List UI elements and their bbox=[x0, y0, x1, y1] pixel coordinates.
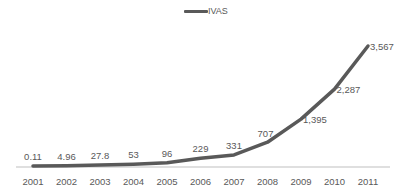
data-label: 331 bbox=[226, 140, 242, 151]
x-axis-tick-labels: 2001200220032004200520062007200820092010… bbox=[22, 176, 378, 187]
data-label: 229 bbox=[193, 143, 209, 154]
data-label: 3,567 bbox=[370, 41, 394, 52]
data-label: 4.96 bbox=[57, 151, 76, 162]
x-tick-label: 2002 bbox=[56, 176, 77, 187]
x-tick-label: 2008 bbox=[257, 176, 278, 187]
data-label: 1,395 bbox=[303, 114, 327, 125]
data-label: 53 bbox=[128, 149, 139, 160]
data-label: 0.11 bbox=[24, 151, 42, 162]
x-tick-label: 2007 bbox=[223, 176, 244, 187]
data-label: 707 bbox=[258, 128, 274, 139]
data-label: 27.8 bbox=[91, 150, 110, 161]
x-tick-label: 2004 bbox=[123, 176, 144, 187]
line-chart: 2001200220032004200520062007200820092010… bbox=[0, 0, 407, 195]
x-tick-label: 2001 bbox=[22, 176, 43, 187]
x-tick-label: 2011 bbox=[358, 176, 378, 187]
x-tick-label: 2006 bbox=[190, 176, 211, 187]
x-tick-label: 2003 bbox=[89, 176, 110, 187]
data-label: 2,287 bbox=[337, 84, 361, 95]
data-labels: 0.114.9627.853962293317071,3952,2873,567 bbox=[24, 41, 394, 162]
data-label: 96 bbox=[162, 148, 173, 159]
x-tick-label: 2005 bbox=[156, 176, 177, 187]
x-tick-label: 2010 bbox=[324, 176, 345, 187]
x-tick-label: 2009 bbox=[290, 176, 311, 187]
